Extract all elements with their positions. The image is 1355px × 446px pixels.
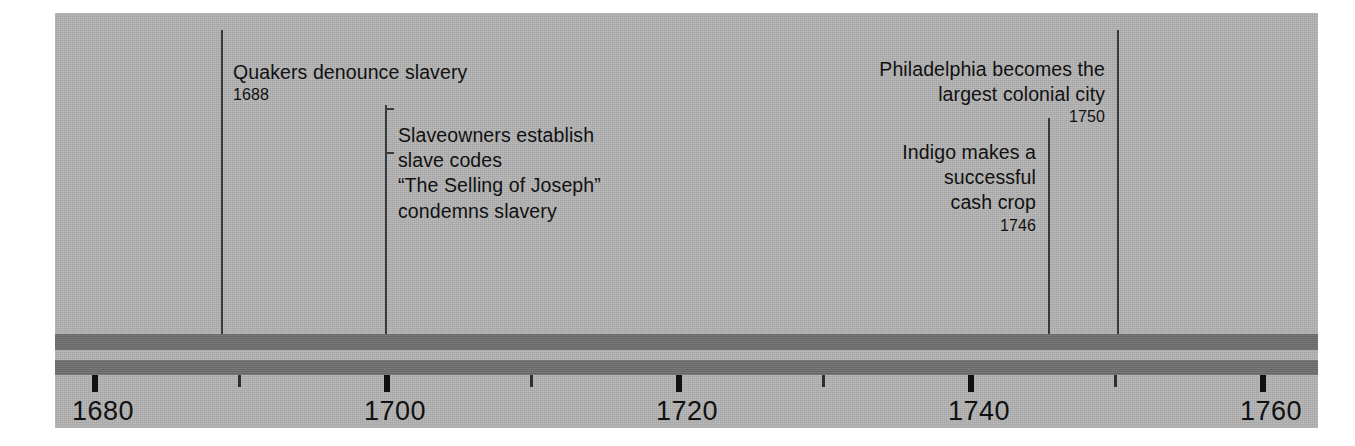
axis-label-1760: 1760 [1240,396,1302,427]
axis-tick-1700 [384,375,390,392]
annotation-slaveowners-body: Slaveowners establish slave codes “The S… [398,124,601,222]
timeline-figure: Quakers denounce slavery 1688 Slaveowner… [0,0,1355,446]
timeline-axis-bar [55,360,1318,375]
event-branch-tick-selling-of-joseph [385,152,394,154]
axis-tick-1690 [238,375,241,387]
axis-tick-1760 [1260,375,1266,392]
annotation-quakers-body: Quakers denounce slavery [233,61,467,83]
axis-tick-1740 [968,375,974,392]
axis-tick-1680 [92,375,98,392]
timeline-bar-upper [55,334,1318,350]
axis-label-1740: 1740 [948,396,1010,427]
event-line-1746 [1048,118,1050,334]
annotation-indigo-year: 1746 [755,216,1036,237]
event-line-1688 [221,30,223,334]
axis-tick-1730 [822,375,825,387]
axis-label-1720: 1720 [656,396,718,427]
axis-label-1680: 1680 [72,396,134,427]
event-line-1700 [385,105,387,334]
axis-tick-1720 [676,375,682,392]
axis-tick-1750 [1114,375,1117,387]
annotation-philadelphia-body: Philadelphia becomes the largest colonia… [879,58,1105,105]
annotation-indigo: Indigo makes a successful cash crop 1746 [755,119,1036,257]
annotation-indigo-body: Indigo makes a successful cash crop [902,141,1036,214]
axis-tick-1710 [530,375,533,387]
event-line-1750 [1117,30,1119,334]
axis-label-1700: 1700 [364,396,426,427]
